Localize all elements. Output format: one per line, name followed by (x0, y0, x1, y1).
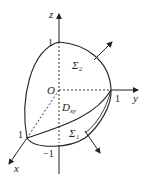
surface-diagram: z y x O 1 1 1 −1 Σ₂ Σ₁ Dxy (0, 0, 147, 187)
x-axis (9, 138, 27, 164)
x-axis-label: x (13, 162, 19, 174)
y-axis-label: y (132, 92, 138, 104)
tick-x-left: 1 (18, 129, 23, 140)
tick-y-right: 1 (115, 93, 120, 104)
surface-sigma2-label: Σ₂ (71, 59, 83, 71)
origin-label: O (47, 84, 55, 96)
region-dxy-label: Dxy (61, 101, 77, 115)
normal-arrow-upper (94, 42, 112, 60)
region-base: D (61, 101, 70, 113)
tick-z-bottom: −1 (43, 148, 54, 159)
region-sub: xy (69, 107, 77, 115)
surface-sigma1-label: Σ₁ (68, 127, 80, 139)
x-axis-dashed (27, 90, 59, 138)
tick-z-top: 1 (48, 37, 53, 48)
normal-arrow-lower (85, 131, 100, 153)
curve-yz-upper (59, 42, 111, 90)
z-axis-label: z (48, 8, 54, 20)
